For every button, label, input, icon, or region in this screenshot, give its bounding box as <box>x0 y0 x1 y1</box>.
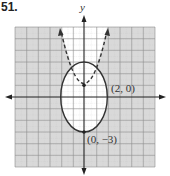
y-axis-up-arrow-icon <box>82 15 87 22</box>
point-label-0-neg3: (0, −3) <box>87 133 117 146</box>
vertex-point <box>82 84 86 88</box>
x-axis-right-arrow-icon <box>159 95 166 100</box>
graph: y (2, 0) (0, −3) <box>0 0 170 176</box>
y-axis-label: y <box>79 1 85 13</box>
y-axis-down-arrow-icon <box>82 168 87 175</box>
x-axis-left-arrow-icon <box>5 95 12 100</box>
point-label-2-0: (2, 0) <box>111 82 135 95</box>
point-0-neg3 <box>82 130 86 134</box>
